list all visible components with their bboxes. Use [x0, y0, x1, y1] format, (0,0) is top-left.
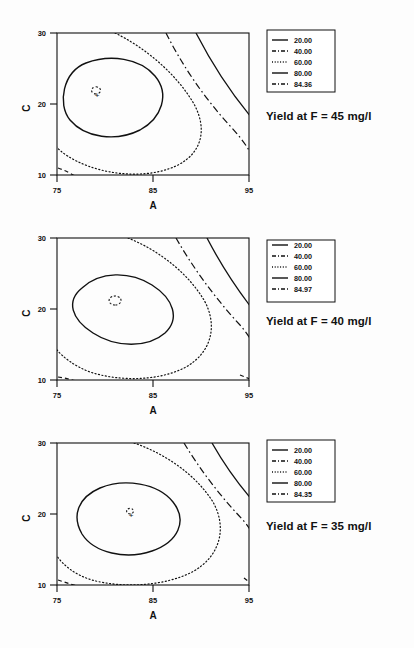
y-tick-label-10: 10	[38, 171, 46, 180]
legend-label-peak: 84.97	[294, 285, 312, 294]
contour-plot-svg-35: 30 20 10 75 85 95 C A +	[0, 410, 414, 626]
y-tick-label-10: 10	[38, 581, 46, 590]
y-tick-label-30: 30	[38, 29, 46, 38]
contour-panel-35: 30 20 10 75 85 95 C A +	[0, 410, 414, 626]
contour-level-60	[55, 33, 201, 174]
contour-plot-svg-40: 30 20 10 75 85 95 C A	[0, 205, 414, 421]
legend-label-80: 80.00	[294, 69, 312, 78]
plot-frame	[57, 33, 249, 175]
legend-label-40: 40.00	[294, 252, 312, 261]
plot-area-40: 30 20 10 75 85 95 C A	[0, 205, 414, 421]
legend-label-60: 60.00	[294, 263, 312, 272]
plot-area-45: 30 20 10 75 85 95 C A	[0, 0, 414, 216]
contour-plot-svg-45: 30 20 10 75 85 95 C A	[0, 0, 414, 216]
x-tick-label-95: 95	[245, 391, 253, 400]
peak-marker: +	[129, 511, 134, 520]
panel-caption-35: Yield at F = 35 mg/l	[266, 520, 371, 532]
legend-label-20: 20.00	[294, 446, 312, 455]
x-tick-label-85: 85	[149, 391, 157, 400]
legend-45: 20.00 40.00 60.00 80.00 84.36	[267, 30, 335, 92]
x-tick-label-85: 85	[149, 596, 157, 605]
contour-level-20	[207, 238, 254, 311]
legend-label-peak: 84.36	[294, 80, 312, 89]
contour-level-40	[166, 33, 252, 156]
x-tick-label-85: 85	[149, 186, 157, 195]
contour-level-20	[212, 443, 254, 502]
panel-caption-45: Yield at F = 45 mg/l	[266, 110, 371, 122]
legend-label-20: 20.00	[294, 241, 312, 250]
x-tick-label-95: 95	[245, 596, 253, 605]
legend-label-80: 80.00	[294, 479, 312, 488]
y-tick-label-30: 30	[38, 439, 46, 448]
legend-label-40: 40.00	[294, 47, 312, 56]
legend-40: 20.00 40.00 60.00 80.00 84.97	[267, 240, 335, 302]
panel-caption-40: Yield at F = 40 mg/l	[266, 315, 371, 327]
legend-label-peak: 84.35	[294, 490, 312, 499]
x-tick-label-75: 75	[53, 596, 61, 605]
contour-level-80	[63, 58, 162, 136]
legend-label-40: 40.00	[294, 457, 312, 466]
y-tick-label-10: 10	[38, 376, 46, 385]
y-tick-label-30: 30	[38, 234, 46, 243]
legend-label-60: 60.00	[294, 58, 312, 67]
y-axis-label: C	[21, 514, 32, 521]
x-tick-label-95: 95	[245, 186, 253, 195]
x-tick-label-75: 75	[53, 391, 61, 400]
x-tick-label-75: 75	[53, 186, 61, 195]
figure-page: 30 20 10 75 85 95 C A	[0, 0, 414, 648]
y-axis-label: C	[21, 104, 32, 111]
plot-frame	[57, 443, 249, 585]
plot-area-35: 30 20 10 75 85 95 C A +	[0, 410, 414, 626]
contour-level-20	[196, 33, 252, 118]
legend-label-20: 20.00	[294, 36, 312, 45]
peak-marker: +	[95, 91, 100, 100]
y-tick-label-20: 20	[38, 510, 46, 519]
y-tick-label-20: 20	[38, 305, 46, 314]
contour-level-peak	[109, 296, 121, 305]
contour-level-80	[73, 275, 174, 344]
contour-panel-45: 30 20 10 75 85 95 C A	[0, 0, 414, 216]
y-axis-label: C	[21, 309, 32, 316]
y-tick-label-20: 20	[38, 100, 46, 109]
contour-level-60	[57, 443, 220, 585]
plot-frame	[57, 238, 249, 380]
legend-35: 20.00 40.00 60.00 80.00 84.35	[267, 440, 335, 502]
contour-panel-40: 30 20 10 75 85 95 C A	[0, 205, 414, 421]
legend-label-80: 80.00	[294, 274, 312, 283]
legend-label-60: 60.00	[294, 468, 312, 477]
x-axis-label: A	[149, 610, 156, 621]
contour-level-60	[57, 238, 211, 379]
